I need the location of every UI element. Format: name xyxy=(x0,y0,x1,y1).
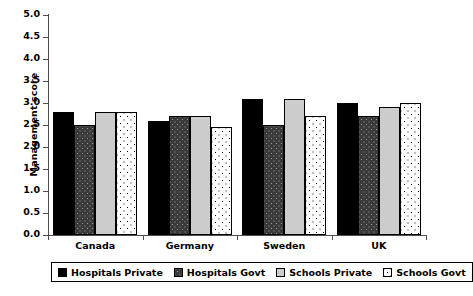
y-tick-label: 4.0 xyxy=(0,52,40,63)
x-tick-mark xyxy=(426,235,427,240)
plot-bars xyxy=(48,15,426,235)
legend-swatch-icon xyxy=(383,268,392,277)
y-tick-label: 2.0 xyxy=(0,140,40,151)
x-tick-mark xyxy=(48,235,49,240)
legend-swatch-icon xyxy=(58,268,67,277)
chart-legend: Hospitals PrivateHospitals GovtSchools P… xyxy=(51,262,473,282)
bar-canada-hospitals-private xyxy=(53,112,74,235)
bar-sweden-schools-private xyxy=(284,99,305,235)
bar-germany-schools-govt xyxy=(211,127,232,235)
bar-uk-schools-govt xyxy=(400,103,421,235)
bar-sweden-hospitals-govt xyxy=(263,125,284,235)
bar-uk-schools-private xyxy=(379,107,400,235)
bar-sweden-schools-govt xyxy=(305,116,326,235)
legend-item-hospitals-govt[interactable]: Hospitals Govt xyxy=(174,267,265,278)
y-tick-label: 1.0 xyxy=(0,184,40,195)
legend-label: Hospitals Govt xyxy=(187,267,265,278)
bar-uk-hospitals-private xyxy=(337,103,358,235)
bar-group-germany xyxy=(143,15,238,235)
y-tick-label: 0.5 xyxy=(0,206,40,217)
legend-item-hospitals-private[interactable]: Hospitals Private xyxy=(58,267,163,278)
y-tick-label: 3.0 xyxy=(0,96,40,107)
legend-label: Schools Govt xyxy=(396,267,466,278)
y-tick-label: 3.5 xyxy=(0,74,40,85)
y-tick-label: 1.5 xyxy=(0,162,40,173)
y-tick-label: 5.0 xyxy=(0,8,40,19)
bar-germany-hospitals-govt xyxy=(169,116,190,235)
x-tick-label-uk: UK xyxy=(319,240,439,251)
bar-canada-schools-private xyxy=(95,112,116,235)
legend-item-schools-govt[interactable]: Schools Govt xyxy=(383,267,466,278)
legend-swatch-icon xyxy=(276,268,285,277)
legend-swatch-icon xyxy=(174,268,183,277)
legend-label: Hospitals Private xyxy=(71,267,163,278)
bar-uk-hospitals-govt xyxy=(358,116,379,235)
legend-label: Schools Private xyxy=(289,267,372,278)
bar-germany-hospitals-private xyxy=(148,121,169,235)
y-tick-label: 2.5 xyxy=(0,118,40,129)
legend-item-schools-private[interactable]: Schools Private xyxy=(276,267,372,278)
bar-sweden-hospitals-private xyxy=(242,99,263,235)
bar-germany-schools-private xyxy=(190,116,211,235)
bar-group-uk xyxy=(332,15,427,235)
bar-group-canada xyxy=(48,15,143,235)
y-tick-label: 0.0 xyxy=(0,228,40,239)
bar-canada-schools-govt xyxy=(116,112,137,235)
bar-canada-hospitals-govt xyxy=(74,125,95,235)
y-tick-label: 4.5 xyxy=(0,30,40,41)
bar-group-sweden xyxy=(237,15,332,235)
